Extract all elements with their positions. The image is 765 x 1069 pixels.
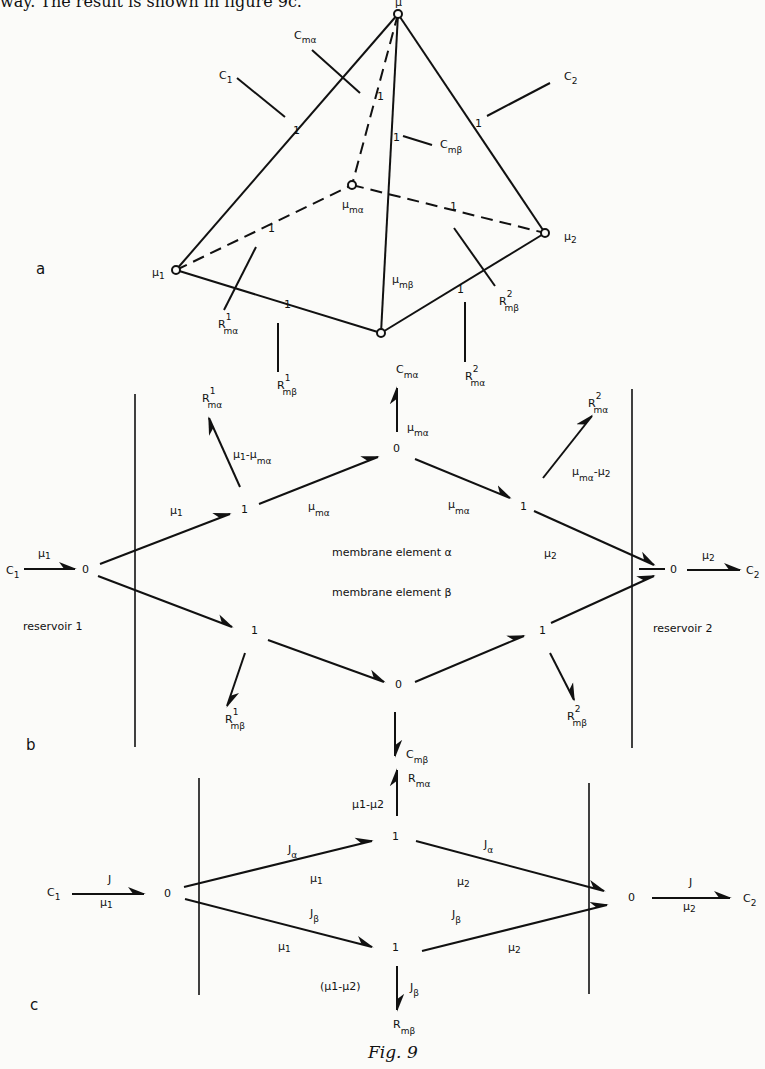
label-c-mu1-minus-mu2: μ1-μ2	[352, 798, 384, 811]
edge-mu1-mua-dashed	[176, 185, 352, 270]
junction-1-c2: 1	[475, 117, 482, 130]
label-c-mu2-right: μ2	[683, 900, 696, 914]
junction-1-lower-left: 1	[251, 624, 258, 637]
label-reservoir-1: reservoir 1	[23, 620, 82, 633]
label-c2: C2	[564, 70, 577, 86]
label-c1: C1	[219, 69, 232, 85]
label-c-c1: C1	[47, 886, 60, 902]
junction-1-c1: 1	[293, 124, 300, 137]
label-b-muma-right: μmα	[448, 498, 470, 516]
junction-0-left: 0	[82, 563, 89, 576]
label-c-j-alpha-left: Jα	[287, 843, 297, 860]
label-b-rma1: R1mα	[202, 386, 222, 410]
label-c-mu1-lower: μ1	[278, 940, 291, 954]
label-b-cma: Cmα	[396, 363, 418, 380]
stub-c2	[487, 83, 550, 116]
label-b-mu2-right: μ2	[702, 549, 715, 563]
label-mu-mb: μmβ	[392, 273, 414, 290]
label-c-paren-mu1-minus-mu2: (μ1-μ2)	[320, 980, 361, 993]
stub-c1	[237, 78, 285, 117]
bond-0-1-upper-left	[100, 514, 230, 564]
label-b-c2: C2	[746, 564, 759, 580]
label-rma2: R2mα	[465, 364, 485, 388]
label-b-mu1-top: μ1	[38, 547, 51, 561]
label-c-c2: C2	[743, 892, 756, 908]
label-c-rma: Rmα	[408, 772, 430, 789]
junction-0-right: 0	[670, 563, 677, 576]
bond-0-1-upper-right	[415, 459, 510, 498]
panel-c-label: c	[30, 996, 38, 1014]
panel-a: a 1 1 1 1 1 1 1 1 μ	[36, 0, 577, 397]
stub-cmb	[403, 136, 432, 145]
label-b-rmb1: R1mβ	[225, 707, 245, 731]
label-b-mu2-mid: μ2	[544, 547, 557, 561]
label-mu-ma: μmα	[342, 198, 364, 215]
label-b-muma-left: μmα	[308, 500, 330, 518]
label-membrane-beta: membrane element β	[332, 586, 452, 599]
stub-rmb2	[454, 228, 495, 286]
label-b-mu1-minus-muma: μ1-μmα	[233, 448, 271, 466]
figure-caption: Fig. 9	[367, 1042, 418, 1062]
panel-b: b C1 μ1 0 μ1 1 R1mα μ1-μmα μmα 0 Cmα μmα…	[6, 363, 759, 765]
bond-1-0-lower	[268, 640, 384, 682]
label-cma: Cmα	[294, 29, 316, 45]
junction-1-lower-right: 1	[539, 624, 546, 637]
junction-1-cma: 1	[377, 90, 384, 103]
bond-1-rmb1	[227, 653, 245, 706]
label-mu1: μ1	[152, 266, 165, 281]
label-reservoir-2: reservoir 2	[653, 622, 712, 635]
label-c-j-beta-left: Jβ	[309, 907, 319, 924]
label-rma1: R1mα	[218, 312, 238, 336]
bond-1-rma2	[543, 416, 592, 478]
bond-c-1-0-upper	[416, 841, 604, 891]
label-cmb: Cmβ	[440, 138, 462, 155]
panel-c: c C1 J μ1 0 Jα μ1 Jβ μ1 1 1 Rmα μ1-μ2 (μ…	[30, 770, 756, 1036]
junction-1-upper-left: 1	[241, 503, 248, 516]
edge-mua-mu2-dashed	[352, 185, 545, 233]
node-mua	[348, 181, 356, 189]
label-mu2: μ2	[564, 230, 577, 245]
label-c-j-left: J	[107, 873, 111, 886]
junction-1-rmb1: 1	[284, 298, 291, 311]
panel-a-label: a	[36, 260, 45, 278]
label-c-rmb: Rmβ	[393, 1018, 415, 1036]
label-c-j-right: J	[688, 876, 692, 889]
label-b-mu1: μ1	[170, 504, 183, 518]
node-mu1	[172, 266, 180, 274]
label-c-j-beta-down: Jβ	[409, 981, 419, 998]
edge-apex-mu2	[398, 14, 545, 233]
label-c-j-beta-right: Jβ	[451, 908, 461, 925]
junction-1-rma2: 1	[457, 283, 464, 296]
node-apex	[394, 10, 402, 18]
junction-c-1-lower: 1	[392, 941, 399, 954]
label-c-mu2-upper: μ2	[457, 875, 470, 889]
bond-0-1-lower-right	[415, 636, 524, 682]
bond-1-rmb2	[550, 653, 574, 700]
label-c-mu1-upper: μ1	[310, 872, 323, 886]
label-c-mu2-lower: μ2	[508, 941, 521, 955]
node-mu2	[541, 229, 549, 237]
edge-apex-mu1	[176, 14, 398, 270]
junction-1-cmb: 1	[393, 131, 400, 144]
label-b-rma2: R2mα	[588, 391, 608, 415]
bond-1-0-upper	[259, 457, 378, 504]
label-b-rmb2: R2mβ	[567, 704, 587, 728]
label-apex-mu: μ	[395, 0, 402, 9]
header-text: way. The result is shown in figure 9c.	[0, 0, 302, 11]
label-b-muma-minus-mu2: μmα-μ2	[572, 465, 610, 483]
bond-1-0-right-lower	[551, 576, 654, 623]
junction-1-rma1: 1	[268, 222, 275, 235]
bond-c-0-1-upper	[184, 841, 372, 887]
junction-0-lower: 0	[395, 678, 402, 691]
junction-c-1-upper: 1	[392, 830, 399, 843]
label-rmb1: R1mβ	[277, 373, 297, 397]
node-mub	[377, 329, 385, 337]
figure-9-diagram: way. The result is shown in figure 9c. a…	[0, 0, 765, 1069]
label-b-muma-top: μmα	[407, 421, 429, 438]
label-c-mu1-left: μ1	[100, 896, 113, 910]
stub-rma1	[224, 247, 256, 310]
panel-b-label: b	[26, 736, 36, 754]
junction-c-0-left: 0	[164, 887, 171, 900]
junction-1-upper-right: 1	[520, 500, 527, 513]
label-rmb2: R2mβ	[499, 289, 519, 313]
